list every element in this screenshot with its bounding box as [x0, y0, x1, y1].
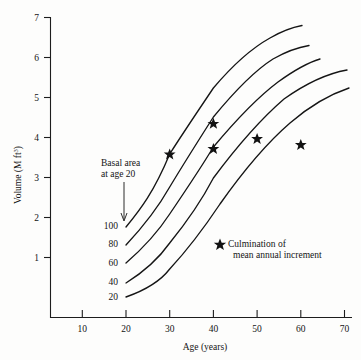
y-tick-label-6: 6	[34, 53, 39, 63]
legend-label-line2: mean annual increment	[233, 250, 322, 260]
marker-group	[164, 118, 307, 160]
star-marker-100	[164, 149, 176, 160]
x-tick-label-40: 40	[209, 324, 219, 334]
x-tick-label-10: 10	[78, 324, 88, 334]
x-tick-label-30: 30	[165, 324, 175, 334]
star-marker-60	[208, 143, 220, 154]
basal-area-annotation: Basal area at age 20	[101, 158, 141, 221]
curve-label-40: 40	[109, 277, 119, 287]
star-marker-80	[208, 118, 220, 129]
curve-label-80: 80	[109, 239, 119, 249]
basal-area-arrow-icon	[121, 182, 127, 221]
chart-canvas: 7 6 5 4 3 2 1 10 20 30 40 50 60 70 Age (…	[0, 0, 361, 360]
y-tick-label-1: 1	[34, 253, 39, 263]
y-axis-title-base: Volume (M ft	[13, 152, 24, 204]
y-tick-label-4: 4	[34, 133, 39, 143]
legend-label-line1: Culmination of	[228, 239, 287, 249]
x-axis	[51, 310, 353, 318]
y-axis	[44, 17, 51, 318]
basal-area-annotation-line1: Basal area	[101, 158, 141, 168]
y-tick-label-3: 3	[34, 173, 39, 183]
curve-label-100: 100	[104, 221, 119, 231]
chart-figure: 7 6 5 4 3 2 1 10 20 30 40 50 60 70 Age (…	[0, 0, 361, 360]
legend: Culmination of mean annual increment	[214, 239, 322, 261]
svg-text:Volume (M ft3): Volume (M ft3)	[12, 146, 25, 204]
y-tick-label-7: 7	[34, 13, 39, 23]
x-tick-label-50: 50	[252, 324, 262, 334]
y-tick-label-2: 2	[34, 213, 39, 223]
star-marker-40	[251, 133, 263, 144]
y-tick-label-5: 5	[34, 93, 39, 103]
curve-label-20: 20	[109, 292, 119, 302]
curve-80	[126, 46, 309, 246]
curve-label-60: 60	[109, 258, 119, 268]
y-axis-title: Volume (M ft3)	[12, 146, 25, 204]
curve-60	[126, 59, 320, 263]
y-axis-title-tail: )	[13, 146, 24, 149]
x-tick-label-60: 60	[296, 324, 306, 334]
x-tick-label-70: 70	[340, 324, 350, 334]
star-marker-20	[295, 139, 307, 150]
x-axis-title: Age (years)	[183, 342, 228, 353]
legend-star-icon	[214, 239, 226, 251]
basal-area-annotation-line2: at age 20	[101, 169, 136, 179]
x-tick-label-20: 20	[121, 324, 131, 334]
